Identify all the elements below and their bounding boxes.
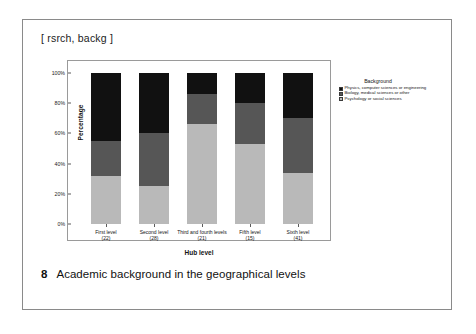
legend-entry-list: Physics, computer sciences or engineerin… — [339, 86, 425, 102]
y-axis-tick-mark — [68, 193, 71, 194]
y-axis-tick-mark — [68, 133, 71, 134]
bar-segment — [235, 103, 265, 144]
bar-segment — [187, 94, 217, 124]
category-count: (22) — [95, 235, 116, 241]
bar-segment — [139, 73, 169, 133]
bar-stack — [139, 73, 169, 224]
bar-segment — [91, 73, 121, 141]
x-axis-category-label: Sixth level(41) — [287, 229, 310, 242]
legend-swatch-icon — [339, 87, 343, 91]
y-axis-tick-label: 20% — [55, 191, 65, 197]
category-name: First level — [95, 229, 116, 235]
category-name: Fifth level — [239, 229, 260, 235]
figure-caption: 8 Academic background in the geographica… — [41, 268, 305, 280]
caption-number: 8 — [41, 268, 47, 280]
bar-stack — [91, 73, 121, 224]
bar-segment — [139, 133, 169, 186]
caption-text: Academic background in the geographical … — [56, 268, 305, 280]
y-axis-tick-mark — [68, 73, 71, 74]
x-axis-category-label: Third and fourth levels(21) — [177, 229, 226, 242]
legend-swatch-icon — [339, 92, 343, 96]
bar-segment — [283, 73, 313, 118]
bar-segment — [187, 124, 217, 224]
chart-legend: Background Physics, computer sciences or… — [339, 78, 425, 102]
bar-segment — [235, 73, 265, 103]
legend-swatch-icon — [339, 97, 343, 101]
category-name: Second level — [140, 229, 169, 235]
legend-label: Psychology or social sciences — [345, 97, 402, 102]
x-axis-tick-mark — [106, 224, 107, 227]
category-count: (41) — [287, 235, 310, 241]
x-axis-category-label: Second level(28) — [140, 229, 169, 242]
x-axis-category-label: First level(22) — [95, 229, 116, 242]
category-count: (28) — [140, 235, 169, 241]
bar-segment — [283, 118, 313, 172]
x-axis-tick-mark — [298, 224, 299, 227]
y-axis-tick-label: 60% — [55, 130, 65, 136]
bar-segment — [91, 141, 121, 176]
category-count: (21) — [177, 235, 226, 241]
x-axis-tick-mark — [154, 224, 155, 227]
y-axis-tick-label: 80% — [55, 100, 65, 106]
bar-stack — [235, 73, 265, 224]
x-axis-tick-mark — [250, 224, 251, 227]
figure-page-frame: [ rsrch, backg ] Percentage 0%20%40%60%8… — [22, 19, 452, 310]
bar-stack — [187, 73, 217, 224]
plot-inner-area — [82, 73, 322, 224]
header-tag: [ rsrch, backg ] — [41, 32, 113, 44]
plot-area: Percentage 0%20%40%60%80%100%First level… — [67, 60, 331, 241]
chart-figure: Percentage 0%20%40%60%80%100%First level… — [67, 60, 422, 258]
bar-segment — [283, 173, 313, 224]
bar-segment — [187, 73, 217, 94]
y-axis-tick-label: 0% — [58, 221, 66, 227]
legend-entry: Psychology or social sciences — [339, 97, 425, 102]
y-axis-tick-mark — [68, 163, 71, 164]
y-axis-tick-label: 40% — [55, 161, 65, 167]
bar-segment — [139, 186, 169, 224]
category-count: (15) — [239, 235, 260, 241]
legend-title: Background — [339, 78, 417, 84]
y-axis-tick-mark — [68, 224, 71, 225]
y-axis-tick-mark — [68, 103, 71, 104]
x-axis-category-label: Fifth level(15) — [239, 229, 260, 242]
category-name: Sixth level — [287, 229, 310, 235]
x-axis-title: Hub level — [67, 249, 331, 256]
bar-stack — [283, 73, 313, 224]
category-name: Third and fourth levels — [177, 229, 226, 235]
x-axis-tick-mark — [202, 224, 203, 227]
bar-segment — [235, 144, 265, 224]
y-axis-tick-label: 100% — [52, 70, 65, 76]
bar-segment — [91, 176, 121, 224]
